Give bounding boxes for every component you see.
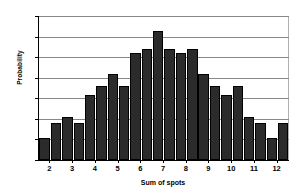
bar-slot xyxy=(107,16,118,160)
bar xyxy=(119,86,129,160)
x-tick-label: 12 xyxy=(265,165,289,173)
bar xyxy=(164,49,174,160)
bar-slot xyxy=(39,16,50,160)
y-tick-mark xyxy=(35,139,38,140)
x-tick-label: 11 xyxy=(242,165,266,173)
plot-area xyxy=(38,16,289,161)
bar-slot xyxy=(187,16,198,160)
y-axis-title: Probability xyxy=(16,18,23,118)
bar xyxy=(39,138,49,160)
x-axis-title: Sum of spots xyxy=(38,179,288,186)
x-tick-mark xyxy=(72,160,73,163)
bar-slot xyxy=(232,16,243,160)
bar-slot xyxy=(164,16,175,160)
bar xyxy=(233,86,243,160)
bar xyxy=(74,123,84,160)
bar-chart: Probability 020406080100120140 234567891… xyxy=(0,0,308,193)
x-tick-label: 8 xyxy=(174,165,198,173)
y-tick-mark xyxy=(35,98,38,99)
y-tick-mark xyxy=(35,160,38,161)
bar-slot xyxy=(62,16,73,160)
x-tick-mark xyxy=(118,160,119,163)
bar-group xyxy=(39,16,289,160)
bar xyxy=(221,95,231,160)
x-tick-label: 5 xyxy=(106,165,130,173)
bar-slot xyxy=(243,16,254,160)
bar-slot xyxy=(198,16,209,160)
x-tick-mark xyxy=(186,160,187,163)
bar-slot xyxy=(119,16,130,160)
x-axis-ticks: 23456789101112 xyxy=(38,163,288,177)
bar xyxy=(244,117,254,160)
x-tick-mark xyxy=(140,160,141,163)
bar xyxy=(153,31,163,160)
x-tick-mark xyxy=(95,160,96,163)
bar-slot xyxy=(153,16,164,160)
bar-slot xyxy=(130,16,141,160)
bar-slot xyxy=(266,16,277,160)
bar xyxy=(278,123,288,160)
bar xyxy=(255,123,265,160)
y-tick-mark xyxy=(35,78,38,79)
bar-slot xyxy=(84,16,95,160)
y-tick-mark xyxy=(35,57,38,58)
x-tick-label: 4 xyxy=(83,165,107,173)
x-tick-mark xyxy=(208,160,209,163)
bar xyxy=(51,123,61,160)
bar-slot xyxy=(209,16,220,160)
y-tick-mark xyxy=(35,119,38,120)
bar xyxy=(130,53,140,160)
bar-slot xyxy=(278,16,289,160)
bar xyxy=(210,86,220,160)
bar-slot xyxy=(73,16,84,160)
bar xyxy=(85,95,95,160)
x-tick-label: 10 xyxy=(219,165,243,173)
bar-slot xyxy=(141,16,152,160)
bar xyxy=(176,53,186,160)
bar-slot xyxy=(96,16,107,160)
x-tick-label: 3 xyxy=(60,165,84,173)
x-tick-mark xyxy=(163,160,164,163)
x-tick-mark xyxy=(49,160,50,163)
bar xyxy=(267,138,277,160)
y-tick-mark xyxy=(35,37,38,38)
bar xyxy=(198,74,208,160)
y-tick-mark xyxy=(35,16,38,17)
x-tick-label: 2 xyxy=(37,165,61,173)
bar xyxy=(96,86,106,160)
x-tick-label: 7 xyxy=(151,165,175,173)
bar xyxy=(108,74,118,160)
bar-slot xyxy=(255,16,266,160)
x-tick-mark xyxy=(277,160,278,163)
bar xyxy=(142,49,152,160)
bar xyxy=(187,49,197,160)
bar-slot xyxy=(175,16,186,160)
bar xyxy=(62,117,72,160)
bar-slot xyxy=(50,16,61,160)
x-tick-mark xyxy=(231,160,232,163)
bar-slot xyxy=(221,16,232,160)
x-tick-label: 6 xyxy=(128,165,152,173)
x-tick-mark xyxy=(254,160,255,163)
x-tick-label: 9 xyxy=(196,165,220,173)
